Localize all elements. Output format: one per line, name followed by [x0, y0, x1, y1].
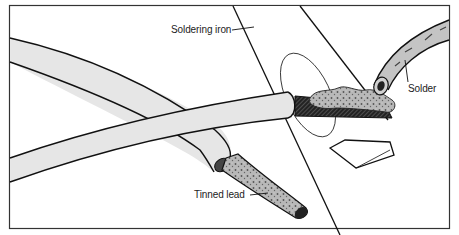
label-solder: Solder [408, 84, 436, 94]
soldering-illustration: Soldering iron Solder Tinned lead [0, 0, 459, 235]
label-tinned-lead: Tinned lead [194, 190, 245, 200]
label-soldering-iron: Soldering iron [171, 25, 231, 35]
